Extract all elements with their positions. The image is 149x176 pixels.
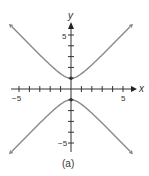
y-axis-arrow-icon: [68, 22, 74, 29]
figure-caption: (a): [62, 158, 74, 169]
x-axis-label: x: [138, 83, 145, 94]
y-axis-label: y: [67, 10, 74, 21]
x-tick-label-5: 5: [121, 94, 126, 103]
hyperbola-chart: x y −5 5 5 −5 (a): [0, 0, 149, 176]
y-tick-label-neg5: −5: [58, 139, 68, 148]
y-tick-label-5: 5: [62, 32, 67, 41]
vertex-point-lower: [69, 98, 73, 102]
vertex-point-upper: [69, 76, 73, 80]
x-tick-label-neg5: −5: [12, 94, 22, 103]
x-axis-arrow-icon: [131, 86, 137, 92]
